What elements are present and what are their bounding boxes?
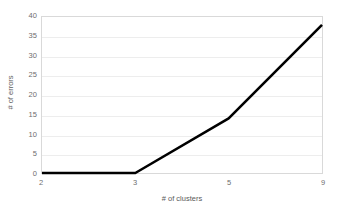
line-chart: 0510152025303540 2359 # of clusters # of… bbox=[0, 0, 345, 213]
data-series-line bbox=[42, 25, 322, 173]
y-axis-tick-label: 10 bbox=[3, 131, 37, 139]
x-axis-tick-label: 3 bbox=[133, 178, 137, 187]
plot-area bbox=[41, 16, 323, 174]
y-axis-title: # of errors bbox=[6, 57, 15, 129]
x-axis-tick-label: 9 bbox=[321, 178, 325, 187]
x-axis-title: # of clusters bbox=[41, 194, 323, 203]
y-axis-tick-label: 35 bbox=[3, 32, 37, 40]
y-axis-tick-label: 5 bbox=[3, 150, 37, 158]
y-axis-tick-label: 0 bbox=[3, 170, 37, 178]
series-line bbox=[42, 17, 322, 173]
x-axis-tick-label: 5 bbox=[227, 178, 231, 187]
x-axis-tick-labels: 2359 bbox=[41, 178, 323, 190]
y-axis-tick-label: 40 bbox=[3, 12, 37, 20]
x-axis-tick-label: 2 bbox=[39, 178, 43, 187]
